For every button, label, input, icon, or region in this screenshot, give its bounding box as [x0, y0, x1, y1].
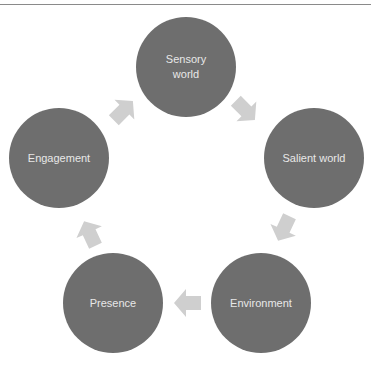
node-presence: Presence — [63, 253, 163, 353]
node-label: Salient world — [283, 151, 346, 166]
node-salient-world: Salient world — [264, 108, 364, 208]
node-engagement: Engagement — [9, 108, 109, 208]
node-sensory-world: Sensory world — [136, 17, 236, 117]
arrow-environment-to-presence-icon — [174, 289, 201, 317]
arrow-engagement-to-sensory-icon — [104, 91, 143, 130]
node-label: Engagement — [28, 151, 90, 166]
node-label: Presence — [90, 296, 136, 311]
node-label: Environment — [230, 296, 292, 311]
node-label: Sensory — [166, 52, 206, 67]
arrow-salient-to-environment-icon — [265, 210, 302, 246]
node-label: world — [166, 67, 206, 82]
arrow-presence-to-engagement-icon — [71, 215, 108, 251]
arrow-sensory-to-salient-icon — [226, 91, 265, 130]
node-environment: Environment — [211, 253, 311, 353]
